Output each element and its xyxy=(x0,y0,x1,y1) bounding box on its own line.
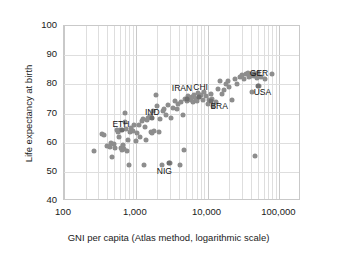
data-point xyxy=(227,85,232,90)
annotation-nig: NIG xyxy=(157,166,172,176)
annotation-ger: GER xyxy=(250,68,268,78)
gridline-vertical xyxy=(242,26,243,199)
gridline-vertical xyxy=(129,26,130,199)
annotation-iran: IRAN xyxy=(172,83,192,93)
gridline-vertical xyxy=(98,26,99,199)
data-point xyxy=(253,153,258,158)
data-point xyxy=(133,138,138,143)
gridline-vertical xyxy=(272,26,273,199)
gridline-vertical xyxy=(208,26,209,199)
data-point xyxy=(116,134,121,139)
gridline-vertical xyxy=(276,26,277,199)
gridline-vertical xyxy=(201,26,202,199)
data-point xyxy=(122,110,127,115)
data-point-chi xyxy=(197,95,202,100)
data-point xyxy=(153,93,158,98)
gridline-vertical xyxy=(279,26,280,199)
gridline-vertical xyxy=(197,26,198,199)
data-point xyxy=(125,148,130,153)
gridline-horizontal xyxy=(64,55,299,56)
data-point xyxy=(230,98,235,103)
gridline-vertical xyxy=(264,26,265,199)
gridline-vertical xyxy=(120,26,121,199)
data-point xyxy=(156,130,161,135)
x-axis-title: GNI per capita (Atlas method, logarithmi… xyxy=(0,232,337,243)
y-tick-40: 40 xyxy=(27,195,57,205)
gridline-vertical xyxy=(251,26,252,199)
x-tick-100000: 100,000 xyxy=(248,207,308,217)
x-tick-1000: 1,000 xyxy=(105,207,165,217)
data-point xyxy=(218,78,223,83)
gridline-vertical xyxy=(136,26,137,199)
data-point xyxy=(126,137,131,142)
data-point xyxy=(142,163,147,168)
data-point xyxy=(101,132,106,137)
data-point xyxy=(143,124,148,129)
gridline-vertical xyxy=(133,26,134,199)
gridline-vertical xyxy=(114,26,115,199)
gridline-vertical xyxy=(192,26,193,199)
data-point xyxy=(180,113,185,118)
annotation-usa: USA xyxy=(254,87,271,97)
y-tick-100: 100 xyxy=(27,20,57,30)
data-point xyxy=(169,115,174,120)
y-tick-60: 60 xyxy=(27,137,57,147)
y-tick-50: 50 xyxy=(27,166,57,176)
y-tick-90: 90 xyxy=(27,49,57,59)
gridline-vertical xyxy=(204,26,205,199)
scatter-chart-figure: Life expectancy at birth 100908070605040… xyxy=(0,0,337,263)
gridline-vertical xyxy=(107,26,108,199)
data-point xyxy=(182,148,187,153)
x-tick-100: 100 xyxy=(33,207,93,217)
y-tick-70: 70 xyxy=(27,108,57,118)
data-point xyxy=(138,134,143,139)
gridline-vertical xyxy=(64,26,65,199)
gridline-vertical xyxy=(86,26,87,199)
data-point xyxy=(91,148,96,153)
gridline-vertical xyxy=(186,26,187,199)
data-point-nig xyxy=(167,160,172,165)
annotation-eth: ETH xyxy=(112,119,129,129)
data-point xyxy=(158,117,163,122)
annotation-ind: IND xyxy=(145,107,160,117)
data-point xyxy=(235,82,240,87)
data-point xyxy=(144,138,149,143)
gridline-vertical xyxy=(268,26,269,199)
data-point-iran xyxy=(185,96,190,101)
gridline-vertical xyxy=(258,26,259,199)
data-point xyxy=(163,113,168,118)
annotation-chi: CHI xyxy=(193,82,208,92)
gridline-horizontal xyxy=(64,143,299,144)
data-point xyxy=(177,163,182,168)
x-tick-10000: 10,000 xyxy=(177,207,237,217)
data-point xyxy=(225,78,230,83)
data-point xyxy=(110,154,115,159)
gridline-vertical xyxy=(229,26,230,199)
gridline-horizontal xyxy=(64,172,299,173)
data-point xyxy=(112,145,117,150)
annotation-bra: BRA xyxy=(210,101,227,111)
data-point xyxy=(126,163,131,168)
y-tick-80: 80 xyxy=(27,78,57,88)
data-point xyxy=(270,71,275,76)
plot-area: ETHINDNIGIRANCHIBRAGERUSA xyxy=(63,25,300,200)
data-point xyxy=(174,107,179,112)
